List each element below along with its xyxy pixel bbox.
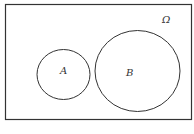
universe-label: Ω bbox=[161, 14, 170, 25]
set-a-label: A bbox=[59, 65, 67, 76]
venn-diagram: A B Ω bbox=[0, 0, 194, 134]
set-b-label: B bbox=[125, 67, 133, 78]
